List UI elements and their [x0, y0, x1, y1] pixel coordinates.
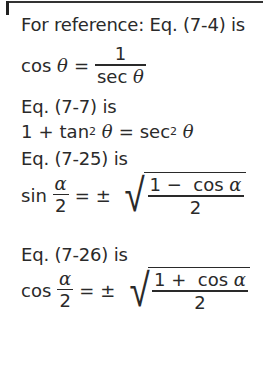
var-theta: θ — [102, 121, 113, 142]
denominator-func: sec — [97, 66, 127, 87]
denominator: 2 — [192, 292, 207, 314]
var-theta: θ — [183, 121, 194, 142]
cos-func: cos — [198, 269, 228, 290]
var-alpha: α — [234, 269, 246, 290]
half-angle-fraction: α 2 — [57, 269, 73, 313]
equals-sign: = — [75, 185, 90, 206]
denominator: sec θ — [95, 66, 146, 88]
equals-sign: = — [74, 55, 89, 76]
square-root: √ 1 + cos α 2 — [127, 267, 250, 314]
minus-sign: − — [167, 174, 182, 195]
cos-func: cos — [193, 174, 223, 195]
half-angle-fraction: α 2 — [53, 174, 69, 218]
plus-minus-sign: ± — [100, 280, 115, 301]
denominator-var: θ — [133, 66, 144, 87]
plus-minus-sign: ± — [96, 185, 111, 206]
equation-7-7: 1 + tan2 θ = sec2 θ — [21, 121, 194, 142]
lhs-func: cos — [21, 55, 51, 76]
denominator: 2 — [188, 197, 203, 219]
numerator: α — [57, 269, 73, 289]
label-eq-7-25: Eq. (7-25) is — [21, 148, 128, 170]
equals-sign: = — [79, 280, 94, 301]
sec-func: sec — [140, 121, 170, 142]
corner-mark — [6, 1, 9, 15]
equation-7-26: cos α 2 = ± √ 1 + cos α 2 — [21, 267, 250, 314]
label-eq-7-7: Eq. (7-7) is — [21, 96, 116, 118]
tan-func: tan — [60, 121, 90, 142]
numerator: 1 — [113, 44, 128, 64]
var-alpha: α — [229, 174, 241, 195]
numerator: 1 − cos α — [148, 175, 244, 195]
plus-sign: + — [38, 121, 53, 142]
term-one: 1 — [154, 269, 165, 290]
equation-7-25: sin α 2 = ± √ 1 − cos α 2 — [21, 172, 246, 219]
denominator: 2 — [57, 290, 72, 312]
radicand-fraction: 1 + cos α 2 — [148, 267, 250, 314]
radical-icon: √ — [125, 172, 145, 219]
lhs-var: θ — [57, 55, 68, 76]
sin-func: sin — [21, 185, 47, 206]
equation-7-4: cos θ = 1 sec θ — [21, 44, 146, 88]
term-one: 1 — [21, 121, 32, 142]
term-one: 1 — [150, 174, 161, 195]
numerator: α — [53, 174, 69, 194]
label-eq-7-26: Eq. (7-26) is — [21, 244, 128, 266]
numerator: 1 + cos α — [152, 270, 248, 290]
square-root: √ 1 − cos α 2 — [122, 172, 245, 219]
cos-func: cos — [21, 280, 51, 301]
equals-sign: = — [119, 121, 134, 142]
top-border-rule — [6, 1, 263, 3]
fraction: 1 sec θ — [95, 44, 146, 88]
radical-icon: √ — [129, 267, 149, 314]
radicand-fraction: 1 − cos α 2 — [144, 172, 246, 219]
plus-sign: + — [171, 269, 186, 290]
intro-text: For reference: Eq. (7-4) is — [21, 14, 245, 36]
denominator: 2 — [53, 195, 68, 217]
